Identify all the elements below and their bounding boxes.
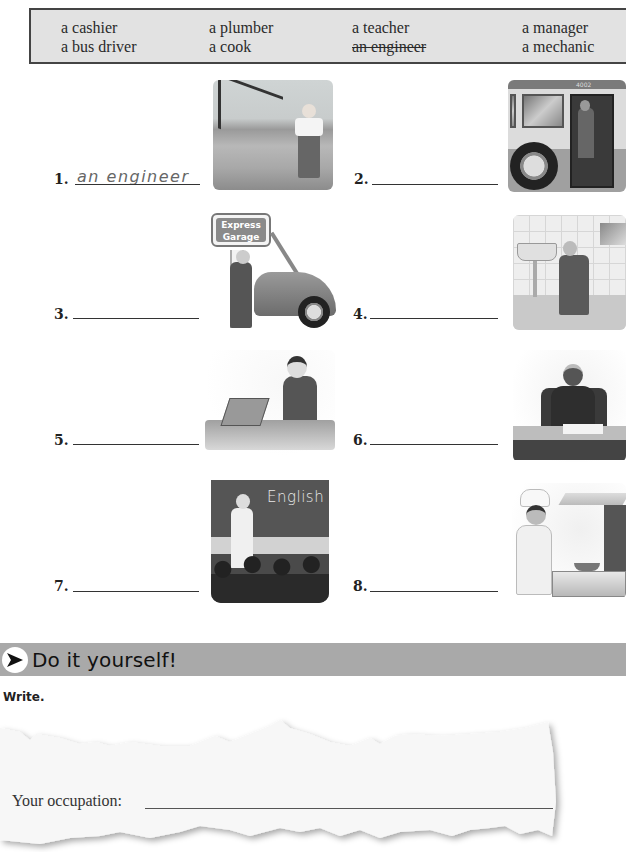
answer-line[interactable] bbox=[75, 184, 200, 185]
chalkboard-text: English bbox=[267, 488, 324, 506]
plumber-head bbox=[563, 241, 577, 256]
papers bbox=[563, 424, 603, 434]
sink-pipe bbox=[533, 261, 537, 297]
answer-line[interactable] bbox=[370, 444, 498, 445]
item-number: 7. bbox=[54, 578, 69, 594]
item-number: 8. bbox=[353, 578, 368, 594]
plumber-illustration bbox=[513, 215, 626, 330]
teacher-illustration: English bbox=[211, 480, 329, 603]
students-crowd bbox=[211, 555, 329, 603]
manager-illustration bbox=[513, 350, 626, 462]
plumber-figure bbox=[559, 255, 589, 315]
teacher-head bbox=[236, 494, 250, 509]
range-hood bbox=[559, 493, 626, 505]
garage-sign-inner: Express Garage bbox=[216, 218, 266, 242]
bridge-shape bbox=[218, 80, 283, 152]
answer-line[interactable] bbox=[372, 184, 498, 185]
bus-window bbox=[522, 94, 564, 128]
word-mechanic: a mechanic bbox=[522, 37, 626, 56]
word-bus-driver: a bus driver bbox=[61, 37, 209, 56]
cook-head bbox=[526, 505, 546, 525]
cashier-figure bbox=[283, 376, 317, 426]
item-number: 3. bbox=[54, 306, 69, 322]
mechanic-head bbox=[236, 250, 250, 264]
occupation-answer-line[interactable] bbox=[145, 808, 553, 809]
answer-line[interactable] bbox=[73, 591, 199, 592]
engineer-blouse bbox=[295, 118, 323, 136]
item-number: 4. bbox=[353, 306, 368, 322]
word-cook: a cook bbox=[209, 37, 352, 56]
cook-illustration bbox=[512, 483, 626, 599]
item-number: 2. bbox=[354, 171, 369, 187]
cook-figure bbox=[516, 525, 552, 595]
item-number: 6. bbox=[353, 432, 368, 448]
driver-head bbox=[580, 100, 590, 111]
car-wheel bbox=[298, 296, 330, 328]
arrow-right-icon bbox=[2, 647, 28, 673]
kitchen-wall bbox=[604, 505, 626, 575]
item-number: 1. bbox=[54, 171, 69, 187]
engineer-head bbox=[302, 104, 316, 118]
answer-line[interactable] bbox=[370, 318, 498, 319]
sink bbox=[517, 243, 557, 261]
arrow-right-icon-glyph bbox=[6, 652, 24, 668]
word-cashier: a cashier bbox=[61, 18, 209, 37]
answer-line[interactable] bbox=[73, 444, 199, 445]
occupation-label: Your occupation: bbox=[12, 792, 122, 810]
word-plumber: a plumber bbox=[209, 18, 352, 37]
bus-number: 4002 bbox=[576, 81, 591, 88]
answer-line[interactable] bbox=[370, 591, 498, 592]
engineer-illustration bbox=[213, 80, 333, 190]
mechanic-illustration: Express Garage bbox=[208, 210, 336, 334]
word-engineer-struck: an engineer bbox=[352, 37, 522, 56]
do-it-yourself-banner: Do it yourself! bbox=[0, 643, 626, 676]
garage-sign: Express Garage bbox=[211, 213, 271, 247]
sign-line-2: Garage bbox=[216, 231, 266, 243]
stove bbox=[552, 571, 626, 597]
mirror bbox=[600, 223, 626, 245]
mechanic-figure bbox=[230, 262, 252, 328]
instruction-label: Write. bbox=[3, 690, 45, 704]
cashier-head bbox=[287, 356, 307, 378]
torn-paper-card bbox=[0, 712, 572, 852]
bus-driver-illustration: 4002 bbox=[508, 80, 626, 192]
driver-figure bbox=[578, 108, 594, 158]
bus-window bbox=[510, 94, 516, 128]
word-bank-grid: a cashier a plumber a teacher a manager … bbox=[61, 18, 626, 56]
frying-pan bbox=[574, 563, 600, 571]
section-title: Do it yourself! bbox=[32, 648, 177, 672]
item-number: 5. bbox=[54, 432, 69, 448]
bus-wheel bbox=[510, 142, 558, 190]
word-manager: a manager bbox=[522, 18, 626, 37]
sign-line-1: Express bbox=[216, 219, 266, 231]
cashier-illustration bbox=[205, 350, 335, 456]
answer-line[interactable] bbox=[73, 318, 199, 319]
bus-door bbox=[570, 94, 614, 188]
word-teacher: a teacher bbox=[352, 18, 522, 37]
manager-head bbox=[563, 364, 583, 386]
word-bank: a cashier a plumber a teacher a manager … bbox=[29, 8, 626, 64]
